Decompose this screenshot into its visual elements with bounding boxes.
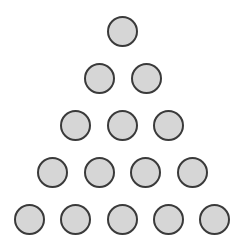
circle-row3-1	[60, 110, 91, 141]
circle-row4-4	[177, 157, 208, 188]
circle-row5-2	[60, 204, 91, 235]
circle-row4-1	[37, 157, 68, 188]
circle-row5-4	[153, 204, 184, 235]
circle-row2-2	[131, 63, 162, 94]
circle-row2-1	[84, 63, 115, 94]
circle-row5-5	[199, 204, 230, 235]
circle-row1-1	[107, 16, 138, 47]
circle-row5-1	[14, 204, 45, 235]
circle-row5-3	[107, 204, 138, 235]
circle-row3-2	[107, 110, 138, 141]
circle-row3-3	[153, 110, 184, 141]
circle-row4-3	[130, 157, 161, 188]
circle-row4-2	[84, 157, 115, 188]
